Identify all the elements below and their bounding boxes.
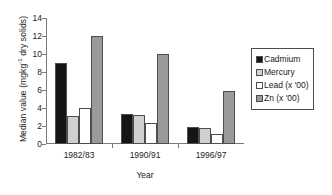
legend-item[interactable]: Cadmium <box>256 53 309 66</box>
x-axis-tick-label: 1996/97 <box>196 150 227 160</box>
bar-chart-figure: Median value (mgkg-1 dry solids) 0246810… <box>0 0 332 195</box>
legend-swatch <box>256 95 263 102</box>
y-axis-tick-label: 10 <box>26 49 42 59</box>
legend-label: Cadmium <box>264 55 300 64</box>
bar <box>157 54 169 144</box>
y-axis-tick-label: 14 <box>26 13 42 23</box>
legend-label: Zn (x '00) <box>264 94 300 103</box>
bar-group <box>46 18 112 144</box>
legend-swatch <box>256 82 263 89</box>
y-axis-tick-label: 2 <box>26 121 42 131</box>
x-axis-separator-tick <box>178 144 179 148</box>
bar-group <box>112 18 178 144</box>
legend-label: Mercury <box>264 68 295 77</box>
x-axis-tick-label: 1990/91 <box>130 150 161 160</box>
bar <box>145 123 157 144</box>
y-axis-tick-label: 8 <box>26 67 42 77</box>
x-axis-separator-tick <box>112 144 113 148</box>
x-axis-title: Year <box>46 170 244 180</box>
legend-item[interactable]: Zn (x '00) <box>256 92 309 105</box>
bar <box>211 134 223 144</box>
y-axis-tick-label: 0 <box>26 139 42 149</box>
legend: CadmiumMercuryLead (x '00)Zn (x '00) <box>251 48 314 110</box>
y-axis-tick-labels: 02468101214 <box>26 0 42 195</box>
bar-group <box>178 18 244 144</box>
bar <box>223 91 235 144</box>
y-axis-tick-label: 6 <box>26 85 42 95</box>
y-axis-tick-label: 12 <box>26 31 42 41</box>
bar <box>121 114 133 144</box>
bar <box>67 116 79 144</box>
bar <box>187 127 199 144</box>
legend-swatch <box>256 56 263 63</box>
bar <box>133 115 145 144</box>
y-axis-title-superscript: -1 <box>17 58 23 64</box>
legend-label: Lead (x '00) <box>264 81 309 90</box>
y-axis-tick-label: 4 <box>26 103 42 113</box>
legend-item[interactable]: Lead (x '00) <box>256 79 309 92</box>
bar <box>79 108 91 144</box>
bar <box>199 128 211 144</box>
legend-swatch <box>256 69 263 76</box>
legend-item[interactable]: Mercury <box>256 66 309 79</box>
bar <box>91 36 103 144</box>
y-axis-tick-mark <box>42 144 46 145</box>
bar <box>55 63 67 144</box>
x-axis-tick-label: 1982/83 <box>64 150 95 160</box>
plot-area <box>46 18 244 144</box>
